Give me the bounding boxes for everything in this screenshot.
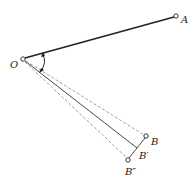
label-A: A: [180, 14, 188, 25]
label-O: O: [10, 59, 18, 70]
label-B-double-prime: B″: [124, 166, 136, 177]
point-A: [174, 14, 178, 18]
point-O: [21, 57, 25, 61]
point-B: [144, 134, 148, 138]
point-B-double-prime: [126, 158, 130, 162]
label-B-prime: B′: [138, 150, 149, 161]
segment-OA: [25, 17, 174, 58]
rotation-diagram: O A B B′ B″: [0, 0, 195, 185]
segment-OB-dashed: [26, 61, 144, 135]
segment-OB-prime: [25, 61, 137, 148]
segment-OB-double-prime-dashed: [25, 62, 127, 158]
label-B: B: [150, 136, 158, 147]
